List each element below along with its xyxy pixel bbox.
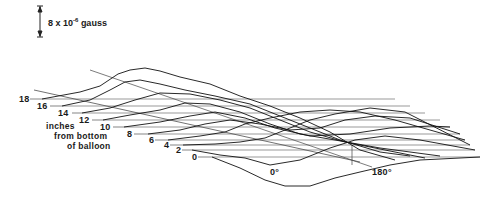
angle-label-0: 0° — [270, 168, 279, 177]
height-label-6: 6 — [149, 136, 154, 145]
waterfall-figure — [0, 0, 486, 197]
height-label-4: 4 — [164, 141, 169, 150]
angle-label-180: 180° — [372, 168, 392, 177]
height-label-16: 16 — [37, 102, 48, 111]
height-label-14: 14 — [58, 109, 69, 118]
height-label-0: 0 — [192, 153, 197, 162]
height-label-8: 8 — [127, 130, 132, 139]
height-label-2: 2 — [176, 146, 181, 155]
scale-label: 8 x 10-6 gauss — [48, 17, 107, 28]
height-label-18: 18 — [19, 95, 30, 104]
scale-bar-icon — [37, 6, 43, 37]
height-axis-title: inches from bottom of balloon — [46, 121, 111, 151]
